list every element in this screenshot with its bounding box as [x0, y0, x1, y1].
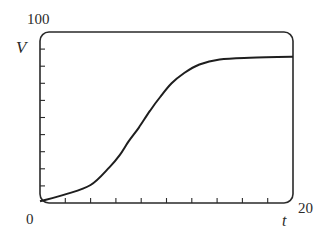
x-axis-label: t	[282, 212, 287, 229]
x-max-label: 20	[298, 200, 313, 216]
x-min-label: 0	[26, 211, 34, 227]
chart: 100 V 0 t 20	[0, 0, 320, 242]
y-axis-label: V	[16, 38, 29, 57]
data-curve	[40, 57, 293, 202]
y-max-label: 100	[27, 11, 50, 27]
axis-ticks	[40, 49, 268, 203]
